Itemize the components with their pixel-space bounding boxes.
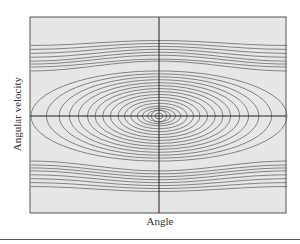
separator-line	[0, 239, 300, 240]
phase-portrait-chart	[0, 0, 300, 244]
y-axis-label: Angular velocity	[11, 59, 23, 169]
x-axis-label: Angle	[130, 215, 190, 227]
